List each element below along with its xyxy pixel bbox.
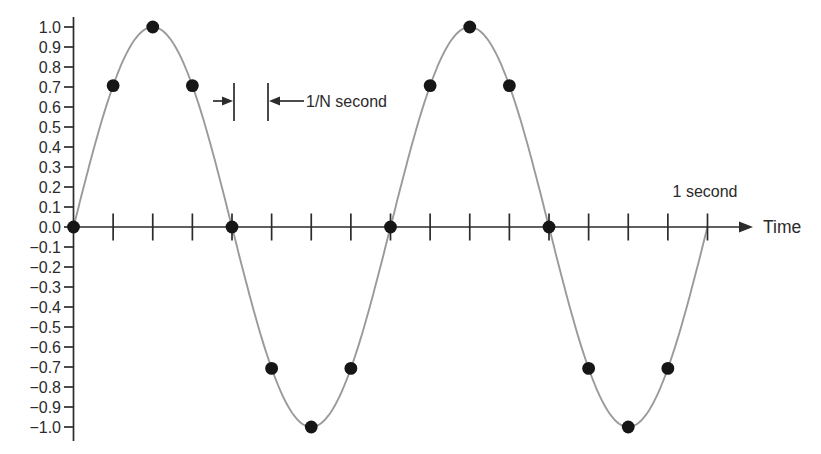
sample-point-dot <box>146 21 159 34</box>
y-axis-tick-label: −0.4 <box>29 299 61 316</box>
right-pointing-arrowhead-icon <box>222 97 233 106</box>
sample-point-dot <box>265 362 278 375</box>
y-axis-tick-label: 0.8 <box>39 59 61 76</box>
y-axis-tick-label: −0.3 <box>29 279 61 296</box>
time-axis-label: Time <box>763 217 801 237</box>
y-axis-tick-label: −0.1 <box>29 239 61 256</box>
sample-point-dot <box>67 221 80 234</box>
y-axis-tick-label: 0.7 <box>39 79 61 96</box>
y-axis-tick-label: 0.4 <box>39 139 61 156</box>
sampled-sine-wave-figure: 1.00.90.80.70.60.50.40.30.20.10.0−0.1−0.… <box>0 0 821 454</box>
sample-point-dot <box>543 221 556 234</box>
sample-point-dot <box>424 79 437 92</box>
sample-interval-label: 1/N second <box>306 93 387 110</box>
sample-point-dot <box>622 421 635 434</box>
y-axis-tick-label: 0.1 <box>39 199 61 216</box>
sample-point-dot <box>503 79 516 92</box>
y-axis-tick-label: −0.9 <box>29 399 61 416</box>
sample-point-dot <box>661 362 674 375</box>
y-axis-tick-label: −1.0 <box>29 419 61 436</box>
sample-point-dot <box>463 21 476 34</box>
sample-point-dot <box>107 79 120 92</box>
y-axis-tick-label: 0.6 <box>39 99 61 116</box>
sample-point-dot <box>186 79 199 92</box>
one-second-label: 1 second <box>673 183 738 200</box>
y-axis-tick-label: 0.5 <box>39 119 61 136</box>
sample-point-dot <box>384 221 397 234</box>
y-axis-tick-label: −0.8 <box>29 379 61 396</box>
y-axis-tick-label: 1.0 <box>39 19 61 36</box>
y-axis-tick-label: −0.7 <box>29 359 61 376</box>
sample-point-dot <box>344 362 357 375</box>
sample-point-dot <box>226 221 239 234</box>
y-axis-tick-label: 0.3 <box>39 159 61 176</box>
sample-point-dot <box>305 421 318 434</box>
y-axis-tick-label: −0.6 <box>29 339 61 356</box>
left-pointing-arrowhead-icon <box>269 97 280 106</box>
sine-chart-canvas: 1.00.90.80.70.60.50.40.30.20.10.0−0.1−0.… <box>0 0 821 454</box>
time-axis-arrowhead-icon <box>739 222 753 233</box>
y-axis-tick-label: −0.2 <box>29 259 61 276</box>
sample-interval-annotation <box>213 83 304 121</box>
y-axis-tick-label: 0.2 <box>39 179 61 196</box>
y-axis-tick-label: 0.9 <box>39 39 61 56</box>
sample-point-dot <box>582 362 595 375</box>
y-axis-tick-label: −0.5 <box>29 319 61 336</box>
y-axis-tick-label: 0.0 <box>39 219 61 236</box>
